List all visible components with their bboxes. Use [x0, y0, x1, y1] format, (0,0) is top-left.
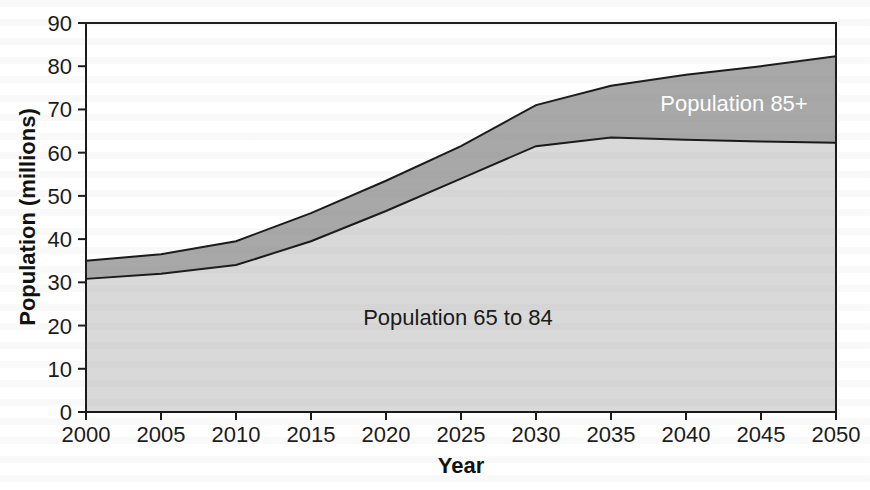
x-tick-label: 2045 — [737, 422, 786, 447]
y-tick-label: 10 — [48, 357, 72, 382]
x-tick-label: 2035 — [587, 422, 636, 447]
x-tick-label: 2010 — [212, 422, 261, 447]
y-tick-label: 80 — [48, 54, 72, 79]
y-tick-label: 60 — [48, 141, 72, 166]
x-tick-label: 2005 — [137, 422, 186, 447]
x-axis-title: Year — [438, 453, 485, 479]
series-label-65-84: Population 65 to 84 — [363, 305, 553, 331]
y-tick-label: 0 — [60, 400, 72, 425]
y-tick-label: 90 — [48, 11, 72, 36]
chart-plot-area: 2000200520102015202020252030203520402045… — [0, 0, 870, 490]
x-tick-label: 2015 — [287, 422, 336, 447]
x-tick-label: 2050 — [812, 422, 861, 447]
y-tick-label: 50 — [48, 184, 72, 209]
x-tick-label: 2020 — [362, 422, 411, 447]
y-tick-label: 20 — [48, 314, 72, 339]
y-tick-label: 40 — [48, 227, 72, 252]
y-axis-title: Population (millions) — [15, 108, 41, 326]
population-projection-chart: 2000200520102015202020252030203520402045… — [0, 0, 870, 490]
x-tick-label: 2040 — [662, 422, 711, 447]
y-tick-label: 70 — [48, 97, 72, 122]
x-tick-label: 2000 — [62, 422, 111, 447]
series-label-85-plus: Population 85+ — [660, 91, 807, 117]
y-tick-label: 30 — [48, 270, 72, 295]
x-tick-label: 2030 — [512, 422, 561, 447]
x-tick-label: 2025 — [437, 422, 486, 447]
